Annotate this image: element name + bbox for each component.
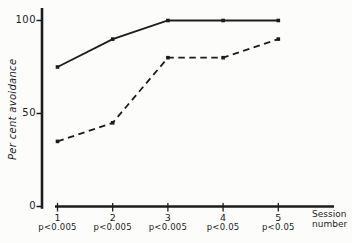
p-value-session-1: p<0.005 bbox=[38, 223, 76, 232]
y-tick-label-100: 100 bbox=[12, 15, 36, 25]
y-tick-label-0: 0 bbox=[12, 201, 36, 211]
data-point-dashed-session-2 bbox=[111, 121, 115, 125]
data-point-dashed-session-3 bbox=[166, 56, 170, 60]
y-tick-label-50: 50 bbox=[12, 108, 36, 118]
data-point-dashed-session-5 bbox=[277, 37, 281, 41]
data-point-dashed-session-4 bbox=[221, 56, 225, 60]
x-axis-title: Session number bbox=[312, 209, 347, 230]
p-value-session-4: p<0.05 bbox=[207, 223, 240, 232]
x-axis-title-line-1: Session bbox=[312, 209, 347, 220]
data-point-solid-session-1 bbox=[56, 65, 60, 69]
plot-area bbox=[0, 0, 352, 243]
x-axis-title-line-2: number bbox=[312, 219, 347, 230]
series-solid-line bbox=[58, 21, 279, 68]
data-point-solid-session-2 bbox=[111, 37, 115, 41]
p-value-session-2: p<0.005 bbox=[94, 223, 132, 232]
data-point-solid-session-3 bbox=[166, 19, 170, 23]
p-value-session-3: p<0.005 bbox=[149, 223, 187, 232]
data-point-solid-session-4 bbox=[221, 19, 225, 23]
series-dashed-line bbox=[58, 39, 279, 141]
avoidance-line-chart: Per cent avoidance 100 50 0 1 2 3 4 5 p<… bbox=[0, 0, 352, 243]
data-point-solid-session-5 bbox=[277, 19, 281, 23]
data-point-dashed-session-1 bbox=[56, 140, 60, 144]
p-value-session-5: p<0.05 bbox=[262, 223, 295, 232]
